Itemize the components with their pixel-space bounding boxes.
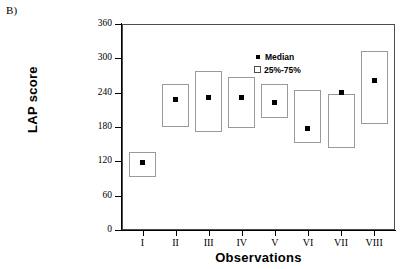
- median-marker: [140, 160, 145, 165]
- legend: Median 25%-75%: [254, 53, 301, 78]
- median-square-icon: [256, 55, 260, 59]
- legend-label-range: 25%-75%: [264, 66, 301, 75]
- y-axis-title: LAP score: [25, 35, 40, 165]
- panel-label: B): [6, 4, 17, 16]
- x-axis-tick: [209, 231, 210, 236]
- y-axis-tick: [115, 58, 121, 59]
- legend-item-range: 25%-75%: [254, 66, 301, 75]
- x-axis-tick-label: VIII: [354, 238, 394, 248]
- y-axis-tick-label: 120: [82, 156, 112, 166]
- median-marker: [206, 95, 211, 100]
- median-marker: [372, 78, 377, 83]
- x-axis-tick: [341, 231, 342, 236]
- box-quartile-range: [294, 90, 321, 143]
- x-axis-tick: [143, 231, 144, 236]
- range-box-icon: [254, 66, 261, 73]
- box-quartile-range: [361, 51, 388, 123]
- x-axis-tick: [374, 231, 375, 236]
- y-axis-tick: [115, 24, 121, 25]
- y-axis-tick-label: 60: [82, 191, 112, 201]
- legend-label-median: Median: [265, 53, 294, 62]
- y-axis-tick: [115, 93, 121, 94]
- y-axis-tick-label: 360: [82, 19, 112, 29]
- x-axis-tick: [242, 231, 243, 236]
- box-quartile-range: [195, 71, 222, 132]
- y-axis-tick-label: 180: [82, 122, 112, 132]
- y-axis-tick: [115, 161, 121, 162]
- x-axis-line: [121, 230, 396, 231]
- y-axis-tick: [115, 127, 121, 128]
- y-axis-tick-label: 240: [82, 88, 112, 98]
- x-axis-tick: [176, 231, 177, 236]
- median-marker: [305, 126, 310, 131]
- y-axis-tick: [115, 230, 121, 231]
- plot-area: Median 25%-75%: [122, 24, 395, 230]
- x-axis-title: Observations: [122, 250, 395, 265]
- y-axis-tick-label: 0: [82, 225, 112, 235]
- median-marker: [239, 95, 244, 100]
- y-axis-tick-label: 300: [82, 53, 112, 63]
- median-marker: [339, 90, 344, 95]
- box-quartile-range: [162, 84, 189, 127]
- y-axis-tick-group: 060120180240300360: [80, 0, 112, 269]
- x-axis-tick: [275, 231, 276, 236]
- box-quartile-range: [228, 77, 255, 129]
- box-quartile-range: [328, 94, 355, 148]
- median-marker: [173, 97, 178, 102]
- legend-item-median: Median: [254, 53, 301, 62]
- y-axis-tick: [115, 196, 121, 197]
- median-marker: [272, 100, 277, 105]
- x-axis-tick: [308, 231, 309, 236]
